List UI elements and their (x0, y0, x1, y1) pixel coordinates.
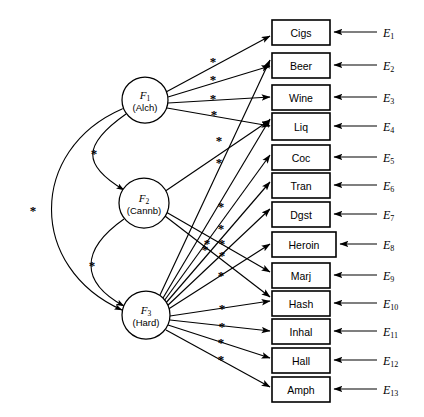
error-label-e12: E12 (382, 354, 398, 370)
cov-F1-F3 (52, 109, 123, 310)
indicator-tran[interactable]: Tran (272, 173, 330, 198)
indicator-liq[interactable]: Liq (272, 113, 330, 140)
indicator-label: Beer (290, 60, 313, 72)
indicator-label: Wine (289, 92, 313, 104)
factor-name: (Cannb) (127, 205, 161, 216)
error-label-e1: E1 (382, 26, 394, 42)
error-label-e10: E10 (382, 297, 398, 313)
error-label-e3: E3 (382, 91, 394, 107)
cov-F2-F3 (91, 219, 124, 306)
indicator-label: Hall (292, 355, 310, 367)
star-loading-F1-I2: * (210, 72, 217, 87)
error-label-e9: E9 (382, 269, 394, 285)
factor-name: (Alch) (133, 102, 158, 113)
error-path-group (334, 32, 377, 389)
indicator-label: Inhal (290, 326, 313, 338)
error-label-e2: E2 (382, 59, 394, 75)
indicator-label: Dgst (290, 209, 312, 221)
error-label-e4: E4 (382, 120, 394, 136)
loading-F1-to-I1 (166, 36, 270, 92)
indicator-label: Hash (289, 298, 314, 310)
star-cov-F2-F3: * (89, 258, 96, 273)
star-loading-F3-I4: * (218, 199, 225, 214)
indicator-label: Heroin (289, 239, 320, 251)
indicator-hash[interactable]: Hash (272, 291, 330, 316)
indicator-wine[interactable]: Wine (272, 85, 330, 110)
factor-name: (Hard) (133, 317, 160, 328)
latent-factor-f1[interactable]: F1(Alch) (122, 77, 168, 123)
indicator-label: Liq (294, 121, 308, 133)
loading-F1-to-I3 (168, 97, 270, 103)
latent-factor-group: F1(Alch)F2(Cannb)F3(Hard) (119, 77, 170, 339)
indicator-marj[interactable]: Marj (272, 263, 330, 288)
error-label-e13: E13 (382, 383, 398, 399)
cov-F1-F2 (93, 114, 126, 190)
star-loading-F1-I1: * (210, 54, 217, 69)
indicator-label: Marj (291, 270, 311, 282)
indicator-dgst[interactable]: Dgst (272, 202, 330, 227)
indicator-label: Coc (292, 152, 311, 164)
indicator-label: Amph (287, 384, 315, 396)
star-loading-F3-I2: * (216, 155, 223, 170)
indicator-amph[interactable]: Amph (272, 377, 330, 402)
indicator-cigs[interactable]: Cigs (272, 20, 330, 45)
indicator-box-group: CigsBeerWineLiqCocTranDgstHeroinMarjHash… (272, 20, 336, 402)
star-loading-F3-I10: * (219, 301, 226, 316)
star-loading-F2-I10: * (202, 242, 209, 257)
star-loading-F3-I12: * (218, 335, 225, 350)
error-label-e5: E5 (382, 151, 394, 167)
error-label-e6: E6 (382, 179, 394, 195)
loading-F1-to-I4 (167, 108, 270, 126)
indicator-beer[interactable]: Beer (272, 53, 330, 78)
star-loading-F2-I4: * (216, 133, 223, 148)
star-loading-F1-I4: * (211, 107, 218, 122)
indicator-hall[interactable]: Hall (272, 348, 330, 373)
factor-loading-group (160, 36, 270, 387)
error-label-group: E1E2E3E4E5E6E7E8E9E10E11E12E13 (382, 26, 398, 399)
star-loading-F3-I13: * (218, 352, 225, 367)
error-label-e11: E11 (382, 325, 398, 341)
latent-factor-f2[interactable]: F2(Cannb) (119, 178, 169, 228)
star-loading-F3-I8: * (218, 268, 225, 283)
sem-path-diagram: CigsBeerWineLiqCocTranDgstHeroinMarjHash… (0, 0, 424, 417)
star-loading-F1-I3: * (210, 91, 217, 106)
indicator-inhal[interactable]: Inhal (272, 319, 330, 344)
star-loading-F3-I11: * (219, 319, 226, 334)
indicator-coc[interactable]: Coc (272, 145, 330, 170)
error-label-e7: E7 (382, 208, 394, 224)
indicator-label: Tran (290, 180, 311, 192)
star-loading-F3-I5: * (218, 221, 225, 236)
latent-factor-f3[interactable]: F3(Hard) (122, 291, 170, 339)
star-loading-F3-I7: * (219, 248, 226, 263)
star-cov-F1-F2: * (91, 146, 98, 161)
indicator-heroin[interactable]: Heroin (272, 232, 336, 257)
star-cov-F1-F3: * (30, 203, 37, 218)
factor-covariance-group (52, 109, 127, 310)
error-label-e8: E8 (382, 238, 394, 254)
indicator-label: Cigs (290, 27, 311, 39)
